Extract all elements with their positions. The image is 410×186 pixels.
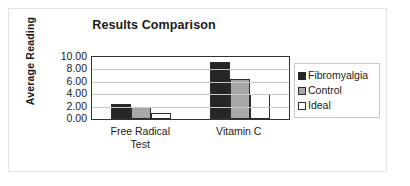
gridline xyxy=(92,107,289,108)
y-axis-tick-label: 6.00 xyxy=(47,76,87,87)
gridline xyxy=(92,82,289,83)
y-axis-tick-label: 10.00 xyxy=(47,51,87,62)
bar-group xyxy=(111,57,171,119)
x-axis-tick-label-line: Test xyxy=(91,138,190,151)
legend-item[interactable]: Control xyxy=(298,83,376,98)
y-axis-tick-label: 8.00 xyxy=(47,63,87,74)
chart-container: Results Comparison Average Reading 10.00… xyxy=(8,8,387,172)
x-axis-tick-label: Vitamin C xyxy=(190,125,289,138)
y-axis-tick-label: 2.00 xyxy=(47,100,87,111)
legend-swatch-icon xyxy=(298,102,306,110)
legend-item[interactable]: Fibromyalgia xyxy=(298,68,376,83)
bar[interactable] xyxy=(131,107,151,119)
legend-swatch-icon xyxy=(298,72,306,80)
y-axis-title: Average Reading xyxy=(24,16,40,106)
y-axis-tick-label: 4.00 xyxy=(47,88,87,99)
bars-layer xyxy=(92,57,289,119)
gridline xyxy=(92,69,289,70)
bar[interactable] xyxy=(210,62,230,119)
legend-item-label: Fibromyalgia xyxy=(308,70,368,81)
chart-title: Results Comparison xyxy=(9,18,299,32)
y-axis-tick-label: 0.00 xyxy=(47,113,87,124)
bar[interactable] xyxy=(151,113,171,119)
bar-group xyxy=(210,57,270,119)
legend-item[interactable]: Ideal xyxy=(298,98,376,113)
legend-item-label: Control xyxy=(308,85,342,96)
chart-legend: FibromyalgiaControlIdeal xyxy=(294,63,380,118)
plot-area xyxy=(91,56,290,120)
legend-item-label: Ideal xyxy=(308,100,331,111)
x-axis-tick-label-line: Vitamin C xyxy=(190,125,289,138)
legend-swatch-icon xyxy=(298,87,306,95)
gridline xyxy=(92,94,289,95)
x-axis-tick-labels: Free RadicalTestVitamin C xyxy=(91,125,288,159)
x-axis-tick-label-line: Free Radical xyxy=(91,125,190,138)
x-axis-tick-label: Free RadicalTest xyxy=(91,125,190,150)
y-axis-tick-labels: 10.008.006.004.002.000.00 xyxy=(47,50,87,122)
bar[interactable] xyxy=(230,79,250,119)
